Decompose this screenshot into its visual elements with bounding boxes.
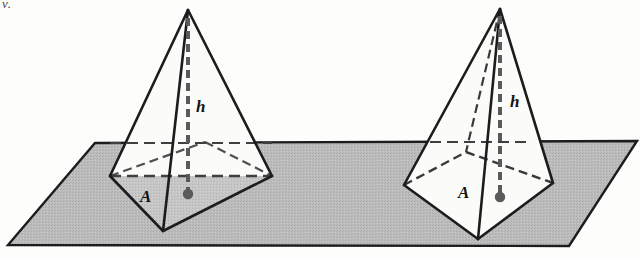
left-height-label: h bbox=[196, 97, 205, 116]
figure-canvas: A h A h bbox=[0, 0, 640, 258]
pyramid-volume-figure: v. bbox=[0, 0, 640, 258]
left-area-label: A bbox=[139, 187, 151, 206]
right-height-label: h bbox=[510, 92, 519, 111]
right-area-label: A bbox=[457, 183, 469, 202]
right-foot-dot bbox=[495, 192, 505, 202]
left-foot-dot bbox=[183, 189, 193, 199]
